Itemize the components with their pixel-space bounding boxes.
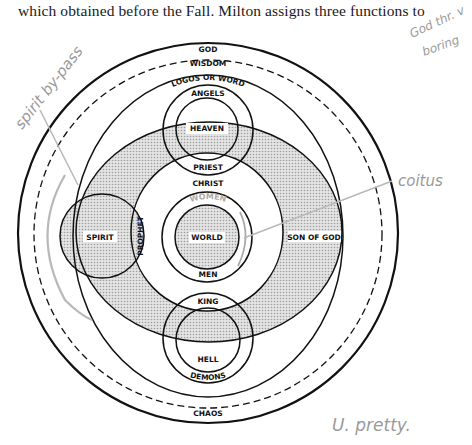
label-king: KING: [197, 297, 218, 306]
label-hell: HELL: [198, 355, 219, 364]
label-god: GOD: [199, 45, 218, 54]
label-wisdom: WISDOM: [190, 59, 227, 68]
label-priest: PRIEST: [193, 163, 224, 172]
label-chaos: CHAOS: [193, 409, 222, 418]
label-prophet: PROPHET: [136, 215, 145, 256]
annotation-bottom-right: U. pretty.: [332, 415, 411, 435]
label-son-of-god: SON OF GOD: [287, 233, 341, 242]
annotation-coitus: coitus: [398, 172, 443, 190]
label-christ: CHRIST: [193, 179, 225, 188]
label-world: WORLD: [191, 233, 222, 242]
label-men: MEN: [199, 270, 218, 279]
label-heaven: HEAVEN: [190, 124, 224, 133]
label-angels: ANGELS: [191, 89, 225, 98]
label-spirit: SPIRIT: [86, 233, 114, 242]
cosmology-diagram: GOD WISDOM LOGOS OR WORD CHAOS ANGELS HE…: [0, 0, 472, 445]
